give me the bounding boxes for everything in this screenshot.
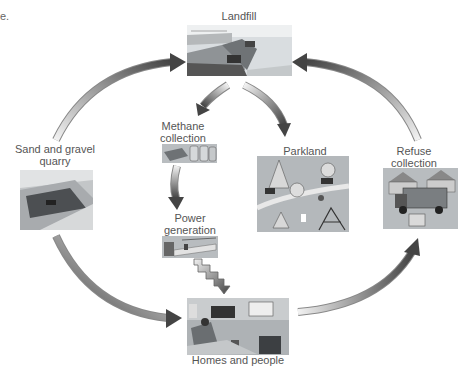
power-label: Power generation [155, 212, 225, 236]
arrow-homes-to-refuse [298, 238, 420, 312]
power-label-line2: generation [164, 224, 216, 236]
refuse-label-line1: Refuse [397, 145, 432, 157]
refuse-label: Refuse collection [384, 145, 444, 169]
quarry-label: Sand and gravel quarry [10, 143, 100, 167]
landfill-illustration [187, 25, 292, 76]
quarry-label-line1: Sand and gravel [15, 143, 95, 155]
quarry-illustration [20, 170, 93, 230]
methane-illustration [162, 144, 217, 163]
homes-illustration [187, 298, 289, 355]
arrow-landfill-to-methane [196, 85, 228, 116]
arrow-methane-to-power [168, 166, 184, 210]
methane-label-line2: collection [160, 132, 206, 144]
parkland-illustration [257, 156, 349, 232]
quarry-label-line2: quarry [39, 155, 70, 167]
arrow-refuse-to-landfill [292, 53, 418, 140]
refuse-illustration [383, 168, 458, 229]
homes-label: Homes and people [180, 354, 296, 366]
landfill-label: Landfill [214, 10, 264, 22]
power-label-line1: Power [174, 212, 205, 224]
power-illustration [162, 236, 218, 258]
methane-label-line1: Methane [162, 120, 205, 132]
arrow-power-to-homes [194, 259, 230, 294]
arrow-landfill-to-parkland [244, 85, 291, 137]
methane-label: Methane collection [148, 120, 218, 144]
